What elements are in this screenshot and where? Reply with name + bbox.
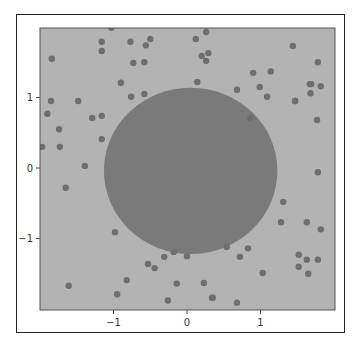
data-point: [257, 84, 263, 90]
data-point: [223, 244, 229, 250]
data-point: [318, 83, 324, 89]
data-point: [48, 98, 54, 104]
data-point: [268, 68, 274, 74]
data-point: [260, 270, 266, 276]
data-point: [130, 60, 136, 66]
data-point: [205, 50, 211, 56]
data-point: [199, 53, 205, 59]
data-point: [210, 295, 216, 301]
data-point: [63, 185, 69, 191]
data-point: [44, 111, 50, 117]
data-point: [128, 94, 134, 100]
data-point: [250, 70, 256, 76]
data-point: [57, 144, 63, 150]
data-point: [82, 163, 88, 169]
data-point: [314, 117, 320, 123]
data-point: [278, 219, 284, 225]
y-tick-label: 1: [27, 92, 33, 103]
data-point: [315, 169, 321, 175]
data-point: [145, 261, 151, 267]
circle-region: [104, 88, 277, 254]
data-point: [118, 79, 124, 85]
data-point: [296, 252, 302, 258]
data-point: [237, 254, 243, 260]
data-point: [292, 98, 298, 104]
data-point: [89, 115, 95, 121]
data-point: [296, 264, 302, 270]
data-point: [99, 39, 105, 45]
data-point: [315, 256, 321, 262]
data-point: [304, 219, 310, 225]
data-point: [174, 280, 180, 286]
y-tick-label: −1: [18, 233, 33, 244]
data-point: [308, 81, 314, 87]
x-tick-label: −1: [106, 317, 121, 328]
data-point: [171, 249, 177, 255]
data-point: [56, 126, 62, 132]
data-point: [147, 36, 153, 42]
data-point: [184, 253, 190, 259]
data-point: [112, 229, 118, 235]
data-point: [151, 265, 157, 271]
data-point: [193, 36, 199, 42]
data-point: [315, 59, 321, 65]
x-axis: −101: [106, 310, 264, 328]
data-point: [141, 91, 147, 97]
data-point: [245, 245, 251, 251]
x-tick-label: 0: [184, 317, 190, 328]
data-point: [143, 42, 149, 48]
data-point: [304, 256, 310, 262]
data-point: [234, 299, 240, 305]
data-point: [247, 115, 253, 121]
data-point: [307, 90, 313, 96]
data-point: [127, 39, 133, 45]
data-point: [165, 297, 171, 303]
data-point: [234, 87, 240, 93]
y-axis: 10−1: [18, 92, 40, 244]
data-point: [49, 56, 55, 62]
data-point: [280, 199, 286, 205]
data-point: [318, 226, 324, 232]
data-point: [114, 291, 120, 297]
y-tick-label: 0: [27, 163, 33, 174]
data-point: [264, 94, 270, 100]
scatter-chart: −101 10−1: [0, 0, 361, 354]
data-point: [99, 113, 105, 119]
data-point: [305, 271, 311, 277]
x-tick-label: 1: [257, 317, 263, 328]
data-point: [194, 79, 200, 85]
data-point: [201, 280, 207, 286]
data-point: [141, 59, 147, 65]
data-point: [124, 277, 130, 283]
data-point: [290, 43, 296, 49]
data-point: [75, 98, 81, 104]
data-point: [99, 136, 105, 142]
data-point: [203, 29, 209, 35]
data-point: [65, 283, 71, 289]
data-point: [99, 48, 105, 54]
data-point: [161, 254, 167, 260]
data-point: [203, 58, 209, 64]
